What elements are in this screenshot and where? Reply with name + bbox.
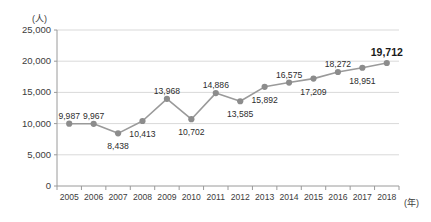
x-axis-tick-label: 2006 (84, 192, 103, 202)
data-point-label: 18,272 (325, 59, 351, 69)
data-point-label: 17,209 (300, 87, 326, 97)
y-axis-tick-label: 20,000 (7, 55, 51, 66)
x-axis-tick-label: 2005 (60, 192, 79, 202)
x-axis-tick-label: 2013 (255, 192, 274, 202)
x-axis-unit-label: (年) (404, 196, 419, 209)
data-point-label: 9,967 (83, 111, 105, 121)
x-axis-tick-label: 2012 (231, 192, 250, 202)
data-point-label: 9,987 (58, 111, 80, 121)
x-axis-tick-label: 2008 (133, 192, 152, 202)
data-point-label: 13,968 (154, 86, 180, 96)
y-axis-tick-label: 10,000 (7, 118, 51, 129)
x-axis-tick-label: 2018 (377, 192, 396, 202)
data-point-label: 18,951 (349, 76, 375, 86)
x-axis-tick-label: 2009 (157, 192, 176, 202)
x-axis-tick-label: 2014 (280, 192, 299, 202)
data-point-label: 8,438 (107, 141, 129, 151)
y-axis-tick-label: 0 (7, 180, 51, 191)
x-axis-tick-label: 2016 (328, 192, 347, 202)
data-point-label: 15,892 (251, 95, 277, 105)
x-axis-tick-label: 2017 (353, 192, 372, 202)
y-axis-tick-label: 25,000 (7, 24, 51, 35)
x-axis-tick-label: 2015 (304, 192, 323, 202)
line-chart: (人) (年) 05,00010,00015,00020,00025,000 2… (0, 0, 431, 222)
y-axis-tick-label: 5,000 (7, 149, 51, 160)
data-point-label: 10,413 (129, 129, 155, 139)
x-axis-tick-label: 2011 (207, 192, 225, 202)
data-point-label: 13,585 (227, 109, 253, 119)
data-point-label: 14,886 (203, 80, 229, 90)
data-point-label: 19,712 (371, 46, 403, 58)
data-point-label: 10,702 (178, 127, 204, 137)
data-point-label: 16,575 (276, 70, 302, 80)
x-axis-tick-label: 2007 (109, 192, 128, 202)
y-axis-tick-label: 15,000 (7, 86, 51, 97)
x-axis-tick-label: 2010 (182, 192, 201, 202)
